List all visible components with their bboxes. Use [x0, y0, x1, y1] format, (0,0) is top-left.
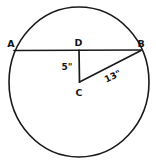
geometry-canvas: A B D C 5" 13": [0, 0, 156, 162]
point-label-d: D: [75, 37, 83, 48]
measure-label-dc: 5": [62, 62, 73, 72]
point-label-a: A: [7, 38, 15, 49]
geometry-diagram: A B D C 5" 13": [0, 0, 156, 162]
measure-label-cb: 13": [103, 68, 123, 85]
point-label-c: C: [76, 87, 83, 98]
point-label-b: B: [137, 38, 144, 49]
chord-ab-line: [14, 50, 141, 51]
segment-dc-line: [79, 50, 80, 82]
